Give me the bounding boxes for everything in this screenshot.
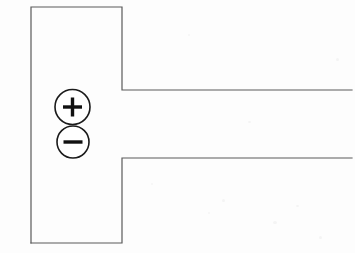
t-outline-top-path — [31, 7, 352, 243]
plus-icon-vertical-bar — [71, 98, 74, 117]
minus-icon-bar — [64, 140, 83, 143]
zoom-out-button[interactable] — [57, 126, 89, 158]
line-drawing — [0, 0, 355, 253]
t-outline-bottom-path — [31, 158, 352, 243]
zoom-in-button[interactable] — [55, 90, 90, 125]
diagram-canvas — [0, 0, 355, 253]
